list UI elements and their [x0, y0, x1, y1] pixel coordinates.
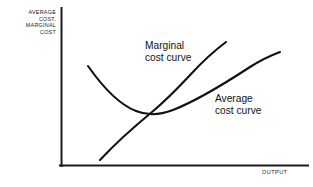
marginal-cost-curve-label: Marginal cost curve — [145, 40, 191, 65]
y-axis-label: AVERAGE COST, MARGINAL COST — [6, 9, 56, 35]
cost-curve-figure: AVERAGE COST, MARGINAL COST OUTPUT Margi… — [0, 0, 313, 187]
average-cost-curve-label: Average cost curve — [215, 93, 261, 118]
text-layer: AVERAGE COST, MARGINAL COST OUTPUT Margi… — [0, 0, 313, 187]
x-axis-label: OUTPUT — [262, 169, 287, 175]
